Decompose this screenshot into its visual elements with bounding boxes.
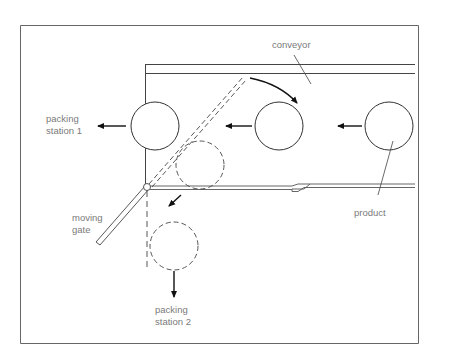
conveyor-diagram: conveyor product packing station 1 packi…: [0, 0, 461, 360]
outer-frame: [21, 26, 419, 165]
packing-station-1-label-line1: packing: [46, 113, 79, 124]
outer-frame-border-lower: [21, 163, 419, 344]
product-station2-circle: [150, 222, 198, 270]
packing-station-2-label-line2: station 2: [155, 316, 191, 327]
conveyor-top-rail: [145, 65, 415, 74]
product-station1-circle: [131, 102, 179, 150]
packing-station-2-label-line1: packing: [155, 304, 188, 315]
conveyor-label: conveyor: [272, 39, 311, 50]
product-leader: [378, 141, 393, 195]
conveyor-bottom-rail: [150, 184, 415, 192]
product-label: product: [354, 207, 386, 218]
moving-gate-label-line2: gate: [72, 224, 91, 235]
conveyor-leader: [294, 55, 311, 84]
moving-gate: [96, 186, 149, 245]
moving-gate-label-line1: moving: [72, 212, 103, 223]
flow-arrow-diverting: [169, 195, 181, 206]
gate-swing-arrow: [250, 78, 297, 103]
gate-pivot: [144, 184, 151, 191]
product-middle-circle: [255, 102, 303, 150]
product-diverting-circle: [176, 141, 224, 189]
product-right-circle: [365, 102, 413, 150]
packing-station-1-label-line2: station 1: [46, 125, 82, 136]
outer-frame-border: [21, 26, 419, 164]
